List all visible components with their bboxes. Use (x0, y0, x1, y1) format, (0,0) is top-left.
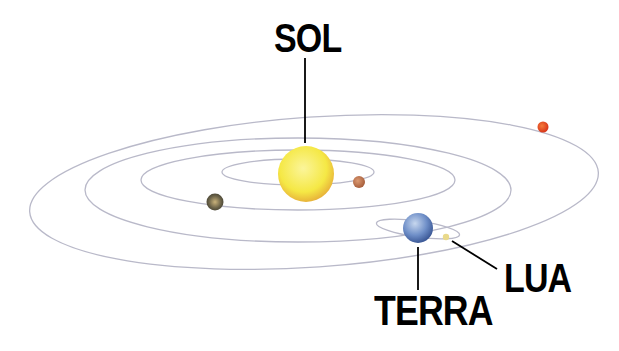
moon-label: LUA (504, 258, 571, 298)
sun-label: SOL (274, 18, 341, 58)
moon-icon (443, 234, 449, 240)
brown-planet-icon (353, 176, 365, 188)
red-planet-icon (538, 122, 549, 133)
dark-planet-icon (207, 194, 224, 211)
earth-label: TERRA (374, 290, 493, 332)
earth-icon (403, 213, 433, 243)
sun-icon (278, 146, 334, 202)
moon-leader-line (452, 241, 497, 269)
